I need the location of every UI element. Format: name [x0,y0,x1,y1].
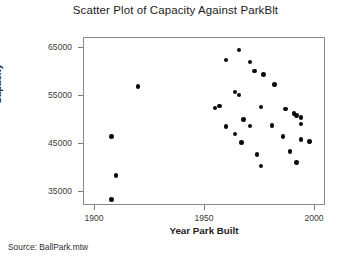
x-tick-label: 1900 [74,213,114,223]
y-tick-mark [78,191,83,192]
y-tick-label: 65000 [28,42,72,52]
x-tick-label: 2000 [294,213,334,223]
x-axis-title: Year Park Built [83,225,325,236]
chart-title: Scatter Plot of Capacity Against ParkBlt [0,4,351,16]
y-tick-label: 35000 [28,186,72,196]
y-axis-title: Capacity [0,64,3,104]
y-tick-label: 55000 [28,90,72,100]
plot-area-frame [83,37,325,205]
x-tick-label: 1950 [184,213,224,223]
x-tick-mark [94,205,95,210]
source-note: Source: BallPark.mtw [8,242,88,252]
y-tick-mark [78,143,83,144]
y-tick-mark [78,95,83,96]
y-tick-mark [78,47,83,48]
x-tick-mark [204,205,205,210]
y-tick-label: 45000 [28,138,72,148]
scatter-chart: Scatter Plot of Capacity Against ParkBlt… [0,0,351,263]
x-tick-mark [314,205,315,210]
